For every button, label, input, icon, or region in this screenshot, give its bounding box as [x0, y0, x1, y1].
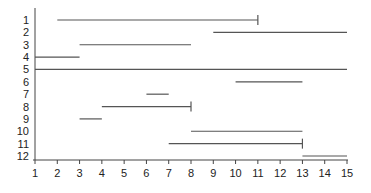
y-tick-label: 3 — [23, 39, 29, 51]
y-tick-label: 7 — [23, 88, 29, 100]
y-tick-label: 5 — [23, 63, 29, 75]
y-tick-label: 8 — [23, 101, 29, 113]
y-tick-label: 4 — [23, 51, 29, 63]
y-tick-label: 6 — [23, 76, 29, 88]
x-tick-label: 10 — [229, 167, 241, 179]
y-tick-label: 10 — [17, 125, 29, 137]
x-tick-label: 12 — [274, 167, 286, 179]
x-tick-label: 5 — [121, 167, 127, 179]
y-tick-label: 12 — [17, 150, 29, 162]
x-tick-label: 3 — [77, 167, 83, 179]
x-tick-label: 1 — [32, 167, 38, 179]
y-tick-label: 2 — [23, 26, 29, 38]
x-tick-label: 6 — [143, 167, 149, 179]
x-tick-label: 9 — [210, 167, 216, 179]
axes — [33, 8, 348, 164]
x-tick-label: 14 — [319, 167, 331, 179]
x-tick-label: 11 — [252, 167, 263, 179]
x-tick-label: 2 — [54, 167, 60, 179]
x-tick-label: 7 — [166, 167, 172, 179]
y-tick-label: 11 — [18, 138, 29, 150]
y-tick-label: 9 — [23, 113, 29, 125]
segments — [35, 15, 347, 156]
x-tick-label: 13 — [296, 167, 308, 179]
x-tick-label: 8 — [188, 167, 194, 179]
x-tick-label: 4 — [99, 167, 105, 179]
y-tick-label: 1 — [23, 14, 29, 26]
tick-labels: 123456789101112131415123456789101112 — [17, 14, 353, 179]
x-tick-label: 15 — [341, 167, 353, 179]
interval-chart: 123456789101112131415123456789101112 — [0, 0, 371, 193]
